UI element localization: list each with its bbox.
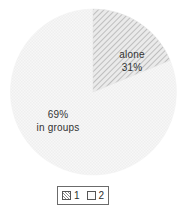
legend-swatch-1-icon [62,191,71,200]
pie-label-alone-percent: 31% [104,61,160,74]
pie-label-alone: alone 31% [104,48,160,74]
legend-label-2: 2 [99,191,105,201]
pie-label-in-groups: 69% in groups [24,108,92,134]
pie-label-in-groups-name: in groups [24,121,92,134]
chart-legend: 1 2 [57,186,109,205]
pie-chart: alone 31% 69% in groups [0,0,188,180]
pie-chart-graphic [0,0,188,180]
pie-label-in-groups-percent: 69% [24,108,92,121]
legend-entry-1[interactable]: 1 [62,191,80,201]
legend-swatch-2-icon [87,191,96,200]
pie-label-alone-name: alone [104,48,160,61]
legend-entry-2[interactable]: 2 [87,191,105,201]
legend-label-1: 1 [74,191,80,201]
